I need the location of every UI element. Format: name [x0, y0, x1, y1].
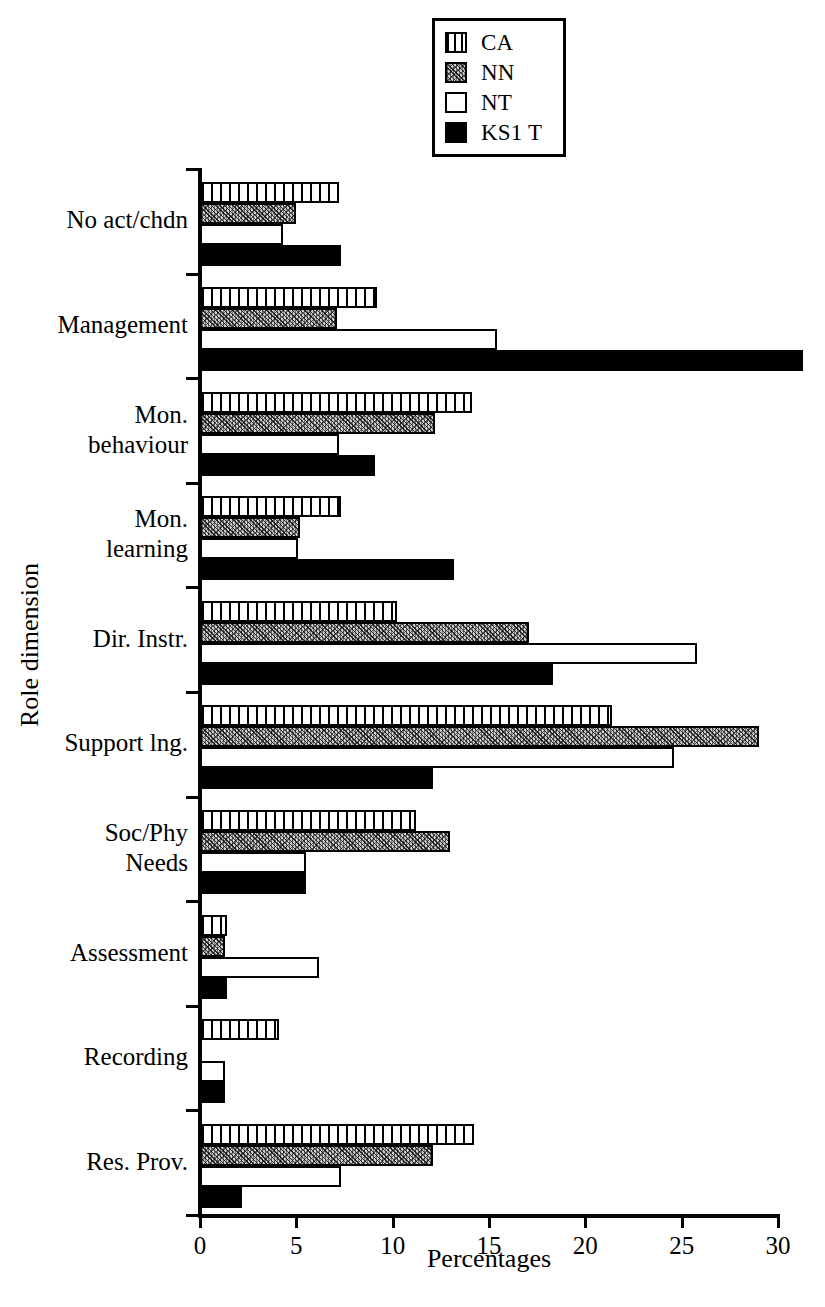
- bar-ks1-t-no-act-chdn: [200, 245, 341, 266]
- bar-nn-mon-learning: [200, 517, 300, 538]
- bar-nn-res-prov-: [200, 1145, 433, 1166]
- category-label: Mon. behaviour: [88, 400, 188, 460]
- bar-group: [200, 810, 778, 894]
- chart-legend: CA NN NT KS1 T: [432, 18, 566, 157]
- legend-item-ks1t: KS1 T: [445, 117, 555, 147]
- bar-ks1-t-recording: [200, 1082, 225, 1103]
- legend-item-nt: NT: [445, 87, 555, 117]
- bar-nn-soc-phy-needs: [200, 831, 450, 852]
- bar-ca-res-prov-: [200, 1124, 474, 1145]
- x-axis-title: Percentages: [200, 1244, 778, 1274]
- bar-ks1-t-soc-phy-needs: [200, 873, 306, 894]
- bar-ca-management: [200, 287, 377, 308]
- y-axis-tick: [186, 168, 200, 171]
- bar-group: [200, 601, 778, 685]
- bar-nn-support-lng-: [200, 726, 759, 747]
- bar-group: [200, 182, 778, 266]
- category-label: Support lng.: [64, 728, 188, 758]
- x-axis-tick: [295, 1214, 298, 1228]
- bar-nt-no-act-chdn: [200, 224, 283, 245]
- category-label: Soc/Phy Needs: [105, 818, 188, 878]
- legend-swatch-nn: [445, 62, 467, 83]
- category-label: Res. Prov.: [86, 1147, 188, 1177]
- bar-group: [200, 392, 778, 476]
- legend-label-nn: NN: [481, 61, 515, 84]
- bar-ks1-t-dir-instr-: [200, 664, 553, 685]
- bar-group: [200, 915, 778, 999]
- y-axis-title: Role dimension: [15, 525, 45, 765]
- bar-nt-mon-behaviour: [200, 434, 339, 455]
- bar-nn-dir-instr-: [200, 622, 529, 643]
- legend-label-ks1t: KS1 T: [481, 121, 542, 144]
- y-axis-tick: [186, 1005, 200, 1008]
- bar-nn-no-act-chdn: [200, 203, 296, 224]
- bar-nn-mon-behaviour: [200, 413, 435, 434]
- bar-ks1-t-support-lng-: [200, 768, 433, 789]
- category-label: Recording: [84, 1042, 188, 1072]
- y-axis-tick: [186, 796, 200, 799]
- x-axis-tick: [584, 1214, 587, 1228]
- category-label: No act/chdn: [67, 205, 188, 235]
- bar-nt-res-prov-: [200, 1166, 341, 1187]
- bar-ks1-t-assessment: [200, 978, 227, 999]
- category-label: Dir. Instr.: [93, 624, 188, 654]
- legend-item-nn: NN: [445, 57, 555, 87]
- category-label: Mon. learning: [106, 504, 188, 564]
- bar-ks1-t-res-prov-: [200, 1187, 242, 1208]
- y-axis-tick: [186, 377, 200, 380]
- x-axis-tick: [488, 1214, 491, 1228]
- bar-ca-assessment: [200, 915, 227, 936]
- legend-item-ca: CA: [445, 27, 555, 57]
- bar-nt-dir-instr-: [200, 643, 697, 664]
- bar-group: [200, 287, 778, 371]
- x-axis-tick: [392, 1214, 395, 1228]
- y-axis-tick: [186, 482, 200, 485]
- bar-nt-mon-learning: [200, 538, 298, 559]
- bar-ca-support-lng-: [200, 705, 612, 726]
- category-label: Assessment: [70, 938, 188, 968]
- bar-nt-management: [200, 329, 497, 350]
- y-axis-tick: [186, 691, 200, 694]
- bar-ca-mon-behaviour: [200, 392, 472, 413]
- bar-ca-dir-instr-: [200, 601, 397, 622]
- x-axis-tick: [681, 1214, 684, 1228]
- bar-nt-soc-phy-needs: [200, 852, 306, 873]
- bar-nt-assessment: [200, 957, 319, 978]
- legend-swatch-ca: [445, 32, 467, 53]
- bar-group: [200, 1124, 778, 1208]
- x-axis-tick: [777, 1214, 780, 1228]
- bar-group: [200, 705, 778, 789]
- bar-ks1-t-mon-learning: [200, 559, 454, 580]
- x-axis-tick: [199, 1214, 202, 1228]
- plot-area: 051015202530: [200, 168, 778, 1214]
- y-axis-tick: [186, 586, 200, 589]
- legend-label-nt: NT: [481, 91, 512, 114]
- bar-ks1-t-mon-behaviour: [200, 455, 375, 476]
- legend-swatch-nt: [445, 92, 467, 113]
- bar-ca-mon-learning: [200, 496, 341, 517]
- y-axis-tick: [186, 1109, 200, 1112]
- bar-group: [200, 1019, 778, 1103]
- legend-swatch-ks1t: [445, 122, 467, 143]
- bar-ca-no-act-chdn: [200, 182, 339, 203]
- category-label: Management: [57, 310, 188, 340]
- y-axis-tick: [186, 273, 200, 276]
- y-axis-tick: [186, 1214, 200, 1217]
- bar-group: [200, 496, 778, 580]
- bar-nn-assessment: [200, 936, 225, 957]
- bar-nt-support-lng-: [200, 747, 674, 768]
- legend-label-ca: CA: [481, 31, 513, 54]
- bar-ks1-t-management: [200, 350, 803, 371]
- bar-nn-management: [200, 308, 337, 329]
- bar-ca-recording: [200, 1019, 279, 1040]
- bar-chart: CA NN NT KS1 T No act/chdnManagementMon.…: [0, 0, 825, 1307]
- y-axis-tick: [186, 900, 200, 903]
- bar-ca-soc-phy-needs: [200, 810, 416, 831]
- bar-nt-recording: [200, 1061, 225, 1082]
